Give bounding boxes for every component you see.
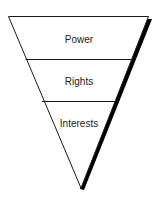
layer-label-interests: Interests	[60, 118, 98, 129]
layer-label-rights: Rights	[65, 76, 93, 87]
layer-label-power: Power	[65, 34, 94, 45]
inverted-triangle-diagram: Power Rights Interests	[0, 0, 160, 199]
